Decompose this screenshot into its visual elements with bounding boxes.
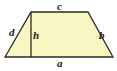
- label-height-h: h: [33, 30, 39, 41]
- trapezoid-diagram: c d h b a: [0, 0, 117, 71]
- label-base-a: a: [57, 58, 63, 69]
- trapezoid-shape: [5, 12, 113, 57]
- label-side-c: c: [57, 1, 62, 12]
- label-side-b: b: [99, 30, 105, 41]
- label-side-d: d: [9, 27, 15, 38]
